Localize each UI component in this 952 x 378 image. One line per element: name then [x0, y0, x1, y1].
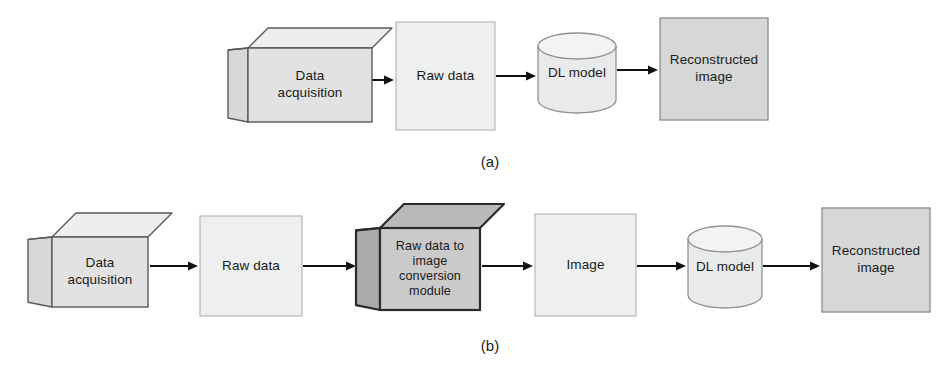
- dl-model-cylinder-label: DL model: [696, 259, 754, 274]
- dl-model-cylinder: DL model: [688, 226, 762, 308]
- arrow-acquisition-to-raw-data: [372, 76, 394, 85]
- reconstructed-image-box: Reconstructedimage: [822, 208, 930, 312]
- raw-data-to-image-conversion-module-cube-top-face: [380, 204, 504, 228]
- raw-data-to-image-conversion-module-cube-label: conversion: [399, 269, 461, 283]
- data-acquisition-cube-side-face: [228, 48, 248, 122]
- arrow-raw-data-to-dl-model: [496, 72, 536, 81]
- panel-b: DataacquisitionRaw dataRaw data toimagec…: [28, 204, 930, 354]
- raw-data-box-label: Raw data: [222, 258, 280, 273]
- dl-model-cylinder: DL model: [538, 33, 616, 113]
- raw-data-box: Raw data: [396, 22, 495, 130]
- arrow-image-to-dl-model: [637, 262, 686, 271]
- arrow-raw-data-to-dl-model-head: [526, 72, 536, 81]
- image-box: Image: [535, 214, 636, 316]
- dl-model-cylinder-top-ellipse: [538, 33, 616, 59]
- data-acquisition-cube-top-face: [52, 213, 172, 237]
- arrow-acquisition-to-raw-data-head: [384, 76, 394, 85]
- data-acquisition-cube-label: Data: [86, 255, 115, 270]
- raw-data-to-image-conversion-module-cube-label: image: [413, 254, 448, 268]
- panel-a-caption: (a): [481, 153, 499, 170]
- data-acquisition-cube: Dataacquisition: [228, 28, 392, 122]
- data-acquisition-cube-top-face: [248, 28, 392, 48]
- arrow-dl-model-to-reconstructed: [763, 262, 820, 271]
- raw-data-to-image-conversion-module-cube-label: Raw data to: [396, 239, 464, 253]
- arrow-conversion-to-image: [482, 262, 533, 271]
- reconstructed-image-box-label: image: [857, 260, 894, 275]
- figure-container: DataacquisitionRaw dataDL modelReconstru…: [0, 0, 952, 378]
- data-acquisition-cube-label: acquisition: [68, 272, 133, 287]
- arrow-dl-model-to-reconstructed-head: [810, 262, 820, 271]
- arrow-dl-model-to-reconstructed-head: [648, 66, 658, 75]
- raw-data-to-image-conversion-module-cube-label: module: [409, 284, 451, 298]
- arrow-image-to-dl-model-head: [676, 262, 686, 271]
- data-acquisition-cube: Dataacquisition: [28, 213, 172, 307]
- arrow-raw-data-to-conversion: [303, 262, 356, 271]
- arrow-acquisition-to-raw-data-head: [188, 262, 198, 271]
- raw-data-box: Raw data: [200, 216, 302, 316]
- image-box-label: Image: [566, 257, 604, 272]
- reconstructed-image-box-label: Reconstructed: [832, 243, 920, 258]
- arrow-acquisition-to-raw-data: [150, 262, 198, 271]
- raw-data-to-image-conversion-module-cube-side-face: [356, 228, 380, 310]
- dl-model-cylinder-top-ellipse: [688, 226, 762, 252]
- arrow-raw-data-to-conversion-head: [346, 262, 356, 271]
- data-acquisition-cube-label: Data: [296, 68, 325, 83]
- raw-data-to-image-conversion-module-cube: Raw data toimageconversionmodule: [356, 204, 504, 310]
- data-acquisition-cube-label: acquisition: [278, 85, 343, 100]
- raw-data-box-label: Raw data: [417, 68, 475, 83]
- panel-a: DataacquisitionRaw dataDL modelReconstru…: [228, 18, 768, 170]
- reconstructed-image-box-label: Reconstructed: [670, 52, 758, 67]
- dl-model-cylinder-label: DL model: [548, 65, 606, 80]
- reconstructed-image-box-label: image: [695, 69, 732, 84]
- diagram-canvas: DataacquisitionRaw dataDL modelReconstru…: [0, 0, 952, 378]
- panel-b-caption: (b): [481, 337, 499, 354]
- data-acquisition-cube-side-face: [28, 237, 52, 307]
- arrow-conversion-to-image-head: [523, 262, 533, 271]
- arrow-dl-model-to-reconstructed: [617, 66, 658, 75]
- reconstructed-image-box: Reconstructedimage: [660, 18, 768, 120]
